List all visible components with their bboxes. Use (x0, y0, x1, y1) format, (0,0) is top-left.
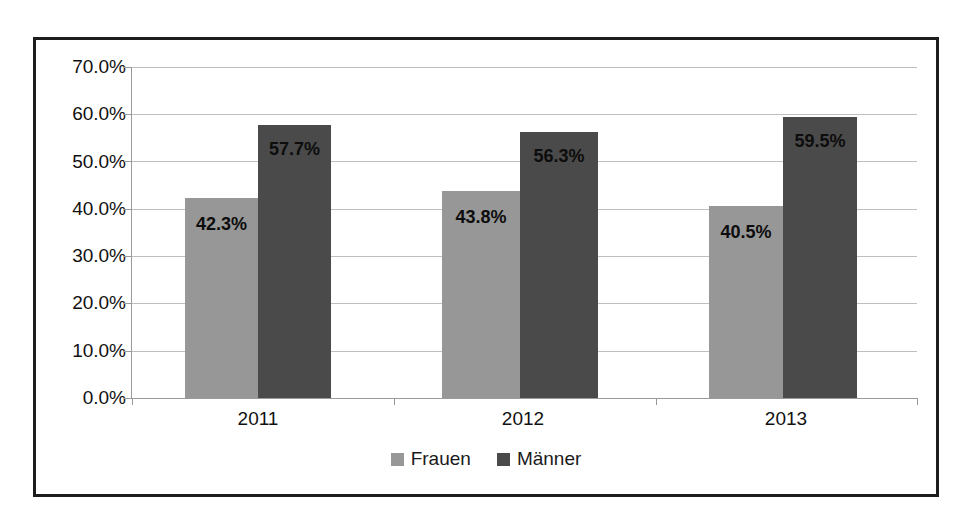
bar-value-label: 42.3% (185, 214, 258, 235)
bar-frauen-2011[interactable]: 42.3% (185, 198, 258, 398)
bar-value-label: 59.5% (783, 131, 857, 152)
chart-frame: 70.0% 60.0% 50.0% 40.0% 30.0% 20.0% 10.0… (33, 37, 939, 497)
bar-value-label: 43.8% (442, 207, 520, 228)
chart-legend: Frauen Männer (36, 448, 936, 470)
legend-item-frauen[interactable]: Frauen (391, 448, 471, 470)
x-axis-tick-mark (917, 398, 918, 405)
y-axis-tick-mark (124, 398, 132, 399)
x-axis-line (131, 398, 917, 399)
bar-value-label: 40.5% (709, 222, 783, 243)
legend-label: Frauen (411, 448, 471, 470)
x-axis-category-label-2013: 2013 (765, 408, 807, 430)
plot-area: 70.0% 60.0% 50.0% 40.0% 30.0% 20.0% 10.0… (36, 40, 936, 494)
bar-maenner-2011[interactable]: 57.7% (258, 125, 331, 398)
x-axis-category-label-2011: 2011 (238, 408, 279, 430)
x-axis-tick-mark (132, 398, 133, 405)
legend-item-maenner[interactable]: Männer (497, 448, 581, 470)
bar-frauen-2013[interactable]: 40.5% (709, 206, 783, 398)
bar-frauen-2012[interactable]: 43.8% (442, 191, 520, 398)
legend-label: Männer (517, 448, 581, 470)
x-axis-tick-mark (394, 398, 395, 405)
legend-swatch-icon (391, 453, 404, 466)
bars-layer: 42.3% 57.7% 43.8% 56.3% 40.5% 59.5% (36, 67, 936, 398)
bar-maenner-2013[interactable]: 59.5% (783, 117, 857, 398)
bar-maenner-2012[interactable]: 56.3% (520, 132, 598, 398)
bar-value-label: 56.3% (520, 146, 598, 167)
x-axis-category-label-2012: 2012 (502, 408, 544, 430)
bar-value-label: 57.7% (258, 139, 331, 160)
legend-swatch-icon (497, 453, 510, 466)
x-axis-tick-mark (656, 398, 657, 405)
